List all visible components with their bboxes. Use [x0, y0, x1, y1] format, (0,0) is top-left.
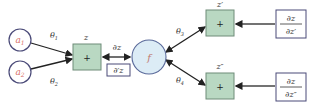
- gradient-dz: ∂z: [113, 43, 122, 52]
- edge-f-zdprime: [166, 60, 205, 85]
- weight-theta3: θ3: [176, 27, 184, 37]
- gradient-dz-dzdprime-box: ∂z ∂z″: [276, 73, 306, 101]
- svg-text:z′: z′: [216, 0, 223, 9]
- svg-text:∂z: ∂z: [287, 14, 296, 23]
- svg-text:∂z″: ∂z″: [285, 90, 296, 99]
- svg-text:∂z′: ∂z′: [286, 27, 296, 36]
- edge-f-zprime: [166, 27, 205, 52]
- gradient-dz-dzprime-box: ∂z ∂z′: [276, 10, 306, 38]
- edge-a1-z: [31, 43, 72, 55]
- svg-text:∂z: ∂z: [287, 77, 296, 86]
- input-node-a2: a2: [9, 61, 31, 83]
- svg-text:+: +: [216, 19, 224, 29]
- sum-node-z-prime: z′ +: [206, 0, 234, 36]
- gradient-d-prime-z-box: ∂′z: [107, 64, 130, 76]
- svg-text:+: +: [83, 53, 91, 63]
- sum-node-z: z +: [73, 33, 101, 70]
- weight-theta2: θ2: [50, 77, 58, 87]
- function-node-f: f: [132, 40, 166, 74]
- input-node-a1: a1: [9, 29, 31, 51]
- sum-node-z-double-prime: z″ +: [206, 62, 234, 99]
- svg-text:z: z: [83, 33, 89, 42]
- backprop-diagram: a1 a2 θ1 θ2 θ3 θ4 z + ∂z ∂′z f z′ + z″ +…: [0, 0, 310, 109]
- svg-text:+: +: [216, 82, 224, 92]
- svg-text:z″: z″: [215, 62, 223, 71]
- edge-a2-z: [31, 59, 72, 69]
- svg-text:∂′z: ∂′z: [113, 66, 124, 75]
- weight-theta1: θ1: [50, 31, 58, 41]
- weight-theta4: θ4: [176, 76, 184, 86]
